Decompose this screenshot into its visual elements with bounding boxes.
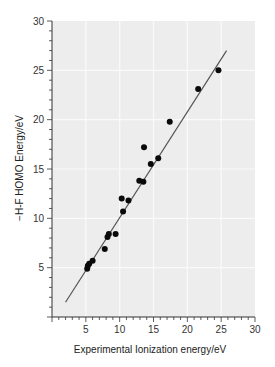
y-tick-label: 15 (33, 164, 45, 175)
y-tick-label: 30 (33, 16, 45, 27)
data-point (119, 196, 125, 202)
x-tick-label: 25 (216, 324, 228, 335)
data-point (106, 231, 112, 237)
data-point (148, 161, 154, 167)
x-axis-title: Experimental Ionization energy/eV (74, 344, 227, 355)
data-point (140, 179, 146, 185)
x-tick-label: 10 (114, 324, 126, 335)
x-tick-label: 20 (182, 324, 194, 335)
y-tick-label: 25 (33, 65, 45, 76)
data-point (120, 208, 126, 214)
x-tick-label: 30 (249, 324, 261, 335)
data-point (102, 246, 108, 252)
data-point (90, 258, 96, 264)
x-tick-label: 15 (148, 324, 160, 335)
scatter-chart: 5101520253051015202530 Experimental Ioni… (0, 0, 275, 367)
data-point (215, 67, 221, 73)
data-point (155, 155, 161, 161)
data-point (125, 198, 131, 204)
data-point (167, 119, 173, 125)
y-axis-title: −H-F HOMO Energy/eV (14, 115, 25, 221)
data-point (141, 144, 147, 150)
data-point (195, 86, 201, 92)
y-tick-label: 10 (33, 213, 45, 224)
data-point (113, 231, 119, 237)
y-tick-label: 5 (38, 262, 44, 273)
x-tick-label: 5 (83, 324, 89, 335)
y-tick-label: 20 (33, 114, 45, 125)
